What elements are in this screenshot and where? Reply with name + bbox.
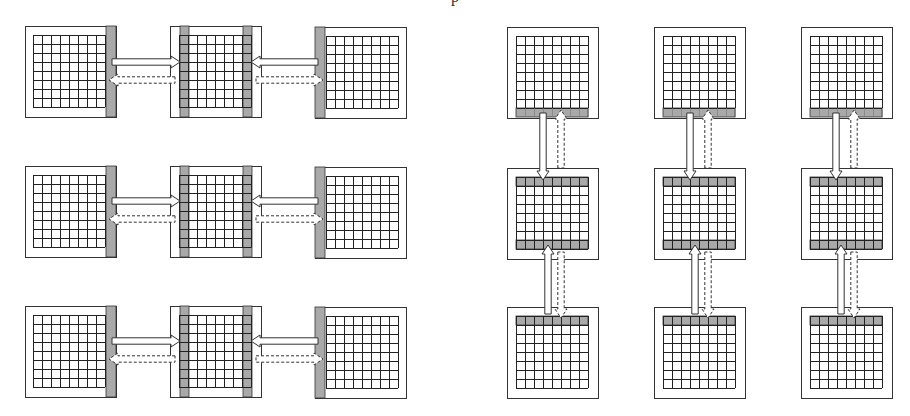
decomposition-column	[802, 28, 893, 399]
subdomain-box	[802, 308, 893, 399]
subdomain-box	[171, 306, 262, 398]
ghost-cell-strip	[516, 108, 588, 117]
ghost-cell-strip	[663, 108, 735, 117]
ghost-cell-strip	[315, 167, 325, 258]
receive-right-arrow	[256, 74, 323, 86]
subdomain-box	[655, 308, 746, 399]
halo-exchange-diagram	[0, 0, 910, 416]
subdomain-box	[26, 166, 117, 258]
receive-up-arrow	[555, 110, 567, 168]
horizontal-decomposition-panel	[26, 26, 407, 399]
ghost-cell-strip	[810, 108, 882, 117]
decomposition-row	[26, 166, 407, 259]
subdomain-box	[171, 166, 262, 258]
receive-right-arrow	[256, 213, 323, 225]
send-right-arrow	[112, 195, 180, 207]
subdomain-box	[26, 26, 117, 118]
subdomain-box	[655, 169, 746, 260]
receive-left-arrow	[109, 213, 175, 225]
receive-right-arrow	[256, 353, 323, 365]
receive-left-arrow	[109, 353, 175, 365]
vertical-decomposition-panel	[508, 28, 893, 399]
subdomain-box	[315, 167, 407, 259]
send-right-arrow	[112, 335, 180, 347]
ghost-cell-strip	[106, 166, 116, 257]
subdomain-box	[508, 308, 599, 399]
subdomain-box	[508, 169, 599, 260]
subdomain-box	[508, 28, 599, 119]
ghost-cell-strip	[106, 26, 116, 117]
decomposition-column	[655, 28, 746, 399]
subdomain-box	[655, 28, 746, 119]
subdomain-box	[26, 306, 117, 398]
decomposition-row	[26, 306, 407, 399]
receive-up-arrow	[848, 110, 860, 168]
ghost-cell-strip	[315, 27, 325, 118]
subdomain-box	[315, 27, 407, 119]
receive-left-arrow	[109, 74, 175, 86]
subdomain-box	[802, 28, 893, 119]
receive-up-arrow	[702, 110, 714, 168]
subdomain-box	[315, 307, 407, 399]
subdomain-box	[802, 169, 893, 260]
ghost-cell-strip	[315, 307, 325, 398]
ghost-cell-strip	[106, 306, 116, 397]
decomposition-column	[508, 28, 599, 399]
subdomain-box	[171, 26, 262, 118]
decomposition-row	[26, 26, 407, 119]
send-right-arrow	[112, 56, 180, 68]
